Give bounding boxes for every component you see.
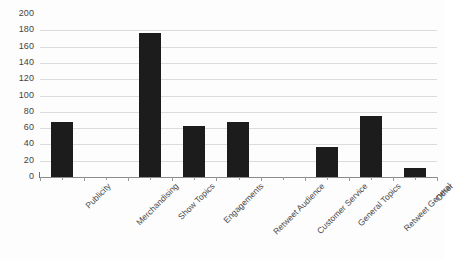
y-axis-tick-label: 0 <box>4 172 34 181</box>
x-axis-minor-tick <box>62 177 63 180</box>
x-axis-minor-tick <box>150 177 151 180</box>
bar <box>227 122 249 177</box>
x-axis-minor-tick <box>415 177 416 180</box>
bar-slot <box>261 14 305 177</box>
y-axis-tick-label: 60 <box>4 123 34 132</box>
bar-slot <box>84 14 128 177</box>
bar-slot <box>216 14 260 177</box>
x-axis-category-label: Publicity <box>83 181 112 210</box>
bar <box>51 122 73 177</box>
x-axis-category-label: Merchandising <box>134 181 180 227</box>
bar <box>360 116 382 177</box>
bars-layer <box>40 14 437 177</box>
x-axis-minor-tick <box>327 177 328 180</box>
x-axis-category-label: Other <box>433 181 455 203</box>
x-axis-category-label: Engagements <box>222 181 266 225</box>
y-axis-tick-label: 160 <box>4 42 34 51</box>
y-axis-tick-label: 140 <box>4 58 34 67</box>
y-axis-tick-label: 100 <box>4 91 34 100</box>
x-axis-minor-tick <box>239 177 240 180</box>
bar-slot <box>349 14 393 177</box>
bar <box>316 147 338 177</box>
x-axis-minor-tick <box>106 177 107 180</box>
plot-area <box>40 14 437 177</box>
y-axis-tick-label: 80 <box>4 107 34 116</box>
y-axis-tick-label: 20 <box>4 156 34 165</box>
bar-slot <box>172 14 216 177</box>
bar-slot <box>393 14 437 177</box>
x-axis-minor-tick <box>371 177 372 180</box>
bar <box>139 33 161 177</box>
y-axis-tick-label: 40 <box>4 139 34 148</box>
x-axis-minor-tick <box>194 177 195 180</box>
bar <box>183 126 205 177</box>
x-axis-category-labels: PublicityMerchandisingShow TopicsEngagem… <box>40 181 437 260</box>
bar-slot <box>128 14 172 177</box>
x-axis-category-label: Show Topics <box>176 181 217 222</box>
y-axis-tick-label: 120 <box>4 74 34 83</box>
bar <box>404 168 426 177</box>
bar-slot <box>40 14 84 177</box>
bar-slot <box>305 14 349 177</box>
y-axis-tick-label: 200 <box>4 9 34 18</box>
x-axis-minor-tick <box>283 177 284 180</box>
y-axis-tick-label: 180 <box>4 25 34 34</box>
x-axis-tick <box>437 177 438 181</box>
